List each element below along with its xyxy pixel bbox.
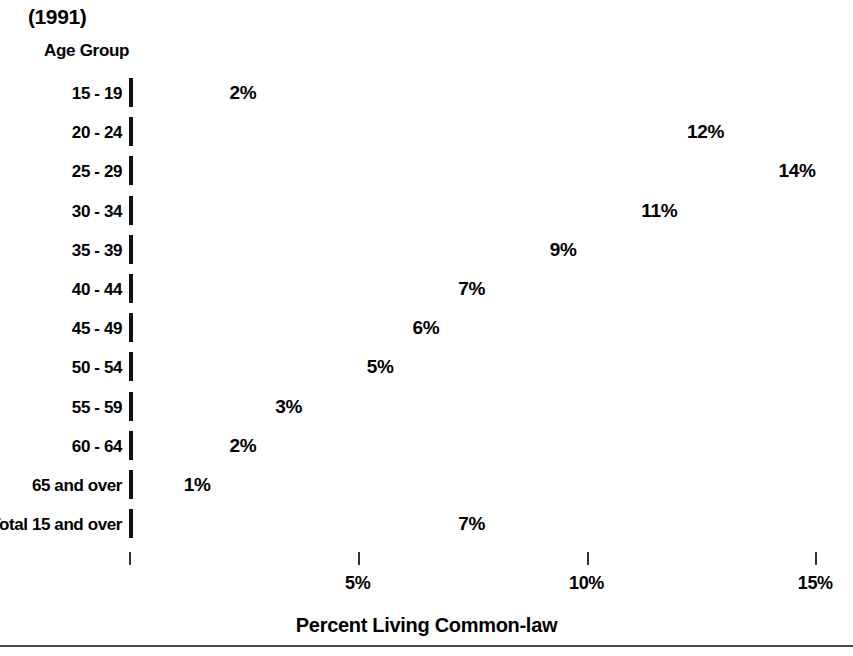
bar-value-label: 1% — [184, 473, 211, 497]
x-axis-label: Percent Living Common-law — [0, 612, 853, 638]
bar-track — [129, 274, 449, 303]
bar-row: 25 - 2914% — [0, 156, 853, 187]
x-axis-tick-label: 5% — [345, 572, 370, 594]
bar — [129, 352, 133, 381]
bar-row: 15 - 192% — [0, 78, 853, 109]
bar-value-label: 6% — [413, 316, 440, 340]
page-title: (1991) — [28, 4, 86, 30]
bar-value-label: 2% — [230, 81, 257, 105]
bar-row: 60 - 642% — [0, 431, 853, 462]
bar — [129, 196, 133, 225]
bar-track — [129, 78, 221, 107]
bar-track — [129, 235, 541, 264]
bar-row: 50 - 545% — [0, 352, 853, 383]
bar-track — [129, 313, 404, 342]
bar-category-label: Total 15 and over — [0, 513, 122, 536]
bar-category-label: 35 - 39 — [72, 239, 122, 262]
bar-value-label: 7% — [458, 512, 485, 536]
bar-track — [129, 117, 678, 146]
bar-category-label: 45 - 49 — [72, 317, 122, 340]
bar-track — [129, 196, 632, 225]
bar-row: 55 - 593% — [0, 392, 853, 423]
bar — [129, 235, 133, 264]
y-axis-label: Age Group — [44, 40, 129, 62]
x-axis-tick — [815, 552, 817, 565]
bar-category-label: 20 - 24 — [72, 121, 122, 144]
bar — [129, 313, 133, 342]
bar — [129, 156, 133, 185]
bar-category-label: 40 - 44 — [72, 278, 122, 301]
x-axis-tick — [587, 552, 589, 565]
bar-value-label: 14% — [779, 159, 816, 183]
bar-category-label: 60 - 64 — [72, 435, 122, 458]
x-axis-tick-label: 10% — [569, 572, 604, 594]
bar-row: 45 - 496% — [0, 313, 853, 344]
bar — [129, 392, 133, 421]
bar-value-label: 9% — [550, 238, 577, 262]
bar-value-label: 11% — [641, 199, 677, 223]
bar-value-label: 12% — [687, 120, 724, 144]
bar — [129, 274, 133, 303]
bar — [129, 78, 133, 107]
bar — [129, 431, 133, 460]
bar-category-label: 50 - 54 — [72, 356, 122, 379]
bar-row: 35 - 399% — [0, 235, 853, 266]
bar-category-label: 25 - 29 — [72, 160, 122, 183]
x-axis: 5%10%15% — [0, 552, 853, 612]
bar-category-label: 15 - 19 — [72, 82, 122, 105]
bar-row: 65 and over1% — [0, 470, 853, 501]
bar — [129, 470, 133, 499]
chart-figure: (1991) Age Group 15 - 192%20 - 2412%25 -… — [0, 0, 853, 656]
bar-row: 30 - 3411% — [0, 196, 853, 227]
x-axis-tick — [129, 552, 131, 565]
plot-area: 15 - 192%20 - 2412%25 - 2914%30 - 3411%3… — [0, 70, 853, 550]
bar-track — [129, 352, 358, 381]
bar — [129, 117, 133, 146]
bar-track — [129, 392, 266, 421]
bar-value-label: 7% — [458, 277, 485, 301]
bar-category-label: 30 - 34 — [72, 200, 122, 223]
bar-track — [129, 156, 770, 185]
bar-row: 40 - 447% — [0, 274, 853, 305]
bottom-divider — [0, 645, 853, 647]
bar-track — [129, 509, 449, 538]
bar-row: Total 15 and over7% — [0, 509, 853, 540]
bar-value-label: 5% — [367, 355, 394, 379]
bar-track — [129, 431, 221, 460]
bar-category-label: 65 and over — [32, 474, 122, 497]
x-axis-tick — [358, 552, 360, 565]
bar-value-label: 2% — [230, 434, 257, 458]
bar-row: 20 - 2412% — [0, 117, 853, 148]
bar-category-label: 55 - 59 — [72, 396, 122, 419]
bar-track — [129, 470, 175, 499]
x-axis-tick-label: 15% — [798, 572, 833, 594]
bar-value-label: 3% — [275, 395, 302, 419]
bar — [129, 509, 133, 538]
